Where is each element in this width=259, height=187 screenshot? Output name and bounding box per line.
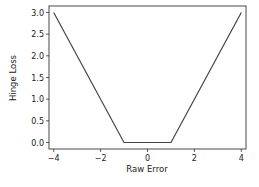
y-axis-ticks: 0.00.51.01.52.02.53.0	[31, 9, 49, 148]
axes-frame	[49, 6, 246, 149]
x-tick-label: −2	[95, 154, 107, 163]
x-axis-label: Raw Error	[126, 164, 168, 174]
plot-area	[49, 6, 246, 149]
y-tick-label: 0.0	[31, 139, 44, 148]
data-series	[54, 13, 242, 143]
x-tick-label: 2	[192, 154, 197, 163]
y-tick-label: 1.0	[31, 95, 44, 104]
x-tick-label: 4	[239, 154, 244, 163]
hinge-loss-chart: 0.00.51.01.52.02.53.0 −4−2024 Raw Error …	[0, 0, 259, 187]
y-tick-label: 1.5	[31, 74, 44, 83]
x-tick-label: 0	[145, 154, 150, 163]
y-tick-label: 2.5	[31, 30, 44, 39]
hinge-loss-line	[54, 13, 242, 143]
x-axis-ticks: −4−2024	[48, 149, 244, 163]
y-axis-label: Hinge Loss	[8, 54, 18, 101]
y-tick-label: 3.0	[31, 9, 44, 18]
x-tick-label: −4	[48, 154, 60, 163]
y-tick-label: 2.0	[31, 52, 44, 61]
y-tick-label: 0.5	[31, 117, 44, 126]
